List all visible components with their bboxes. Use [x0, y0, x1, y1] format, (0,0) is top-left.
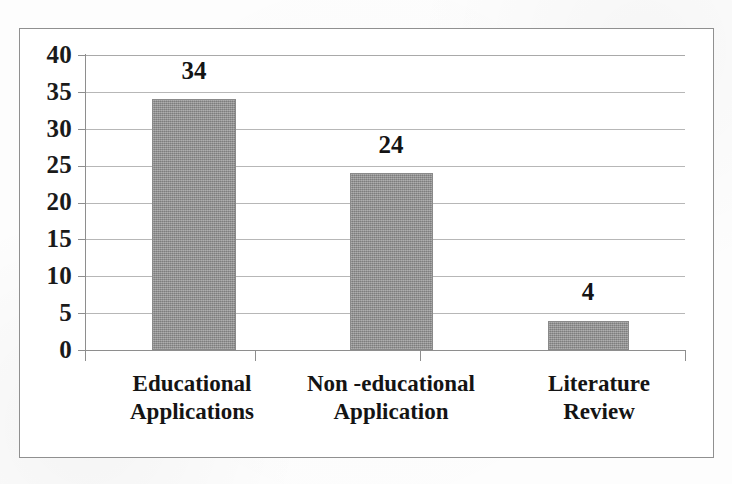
y-axis-label-15: 15 — [20, 226, 72, 251]
y-axis-label-5: 5 — [20, 300, 72, 325]
bar-literature-review[interactable] — [548, 321, 629, 351]
gridline-35 — [85, 92, 685, 93]
y-tick-25 — [78, 166, 86, 167]
category-label-line-1: Literature — [500, 370, 698, 398]
y-tick-40 — [78, 55, 86, 56]
bar-non-educational-application[interactable] — [350, 173, 433, 350]
category-label-line-1: Non -educational — [262, 370, 520, 398]
x-tick-boundary-2 — [420, 350, 421, 361]
y-axis-label-0: 0 — [20, 337, 72, 362]
y-axis-label-10: 10 — [20, 263, 72, 288]
bar-value-label-educational-applications: 34 — [144, 58, 244, 83]
x-tick-boundary-1 — [255, 350, 256, 361]
x-tick-boundary-0 — [85, 350, 86, 361]
y-axis-label-25: 25 — [20, 152, 72, 177]
y-tick-15 — [78, 239, 86, 240]
y-axis-label-20: 20 — [20, 189, 72, 214]
y-axis-label-40: 40 — [20, 42, 72, 67]
chart-screenshot: 40 35 30 25 20 15 10 5 0 34 24 4 Educati… — [0, 0, 732, 484]
y-tick-30 — [78, 129, 86, 130]
y-axis-label-30: 30 — [20, 116, 72, 141]
x-axis-category-label-non-educational-application: Non -educational Application — [262, 370, 520, 426]
bar-value-label-literature-review: 4 — [538, 279, 638, 304]
category-label-line-2: Review — [500, 398, 698, 426]
category-label-line-2: Application — [262, 398, 520, 426]
y-axis-label-35: 35 — [20, 79, 72, 104]
y-tick-10 — [78, 276, 86, 277]
bar-value-label-non-educational-application: 24 — [341, 132, 441, 157]
y-tick-20 — [78, 203, 86, 204]
gridline-40 — [85, 55, 685, 56]
y-tick-35 — [78, 92, 86, 93]
y-tick-5 — [78, 313, 86, 314]
x-tick-boundary-3 — [685, 350, 686, 361]
bar-educational-applications[interactable] — [152, 99, 236, 350]
x-axis-category-label-literature-review: Literature Review — [500, 370, 698, 426]
x-axis-line — [85, 350, 686, 351]
